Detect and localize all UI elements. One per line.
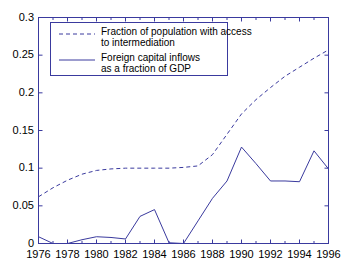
x-tick-label: 1996 (309, 248, 343, 260)
legend-label-1-line2: to intermediation (101, 37, 175, 48)
y-tick-label: 0.15 (0, 124, 34, 136)
legend-swatch-solid (57, 54, 97, 66)
chart-legend[interactable]: Fraction of population with access to in… (50, 22, 228, 76)
y-tick-label: 0.1 (0, 161, 34, 173)
series-line-capital-inflows (39, 147, 329, 243)
y-tick-label: 0.05 (0, 199, 34, 211)
legend-label-2-line1: Foreign capital inflows (101, 52, 200, 63)
legend-label-2-line2: as a fraction of GDP (101, 63, 191, 74)
legend-label-1-line1: Fraction of population with access (101, 26, 252, 37)
y-tick-label: 0.2 (0, 86, 34, 98)
y-tick-label: 0.3 (0, 11, 34, 23)
chart-figure: 00.050.10.150.20.250.3 19761978198019821… (0, 0, 343, 276)
y-tick-label: 0.25 (0, 48, 34, 60)
legend-swatch-dashed (57, 28, 97, 40)
